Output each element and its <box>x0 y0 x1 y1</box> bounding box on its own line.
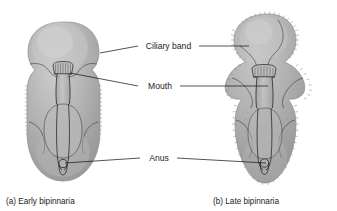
caption-early-bipinnaria: (a) Early bipinnaria <box>6 197 75 206</box>
esophagus-fill-early <box>56 74 70 104</box>
stomach-late <box>248 108 282 159</box>
dome-highlight2-early <box>37 26 73 58</box>
label-mouth: Mouth <box>148 81 172 91</box>
bipinnaria-diagram: Ciliary band Mouth Anus (a) Early bipinn… <box>0 0 337 211</box>
specimen-early-bipinnaria <box>25 22 102 181</box>
label-ciliary-band: Ciliary band <box>146 41 192 51</box>
anus-early <box>59 159 67 167</box>
label-anus: Anus <box>149 153 169 163</box>
caption-late-bipinnaria: (b) Late bipinnaria <box>213 197 279 206</box>
esophagus-fill-late <box>256 77 273 108</box>
dome-highlight2-late <box>245 20 273 44</box>
stomach-early <box>44 104 82 158</box>
figure-container: Ciliary band Mouth Anus (a) Early bipinn… <box>0 0 337 211</box>
